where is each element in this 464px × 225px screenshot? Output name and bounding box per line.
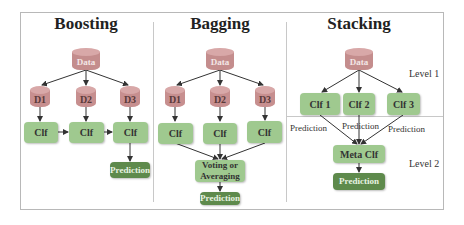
meta-classifier-box: Meta Clf xyxy=(333,145,385,163)
bagging-classifier-1: Clf xyxy=(158,123,193,144)
dataset-label: D3 xyxy=(255,94,275,105)
bagging-classifier-2: Clf xyxy=(203,123,237,144)
voting-or-averaging-box: Voting or Averaging xyxy=(195,160,245,182)
boosting-classifier-1: Clf xyxy=(24,122,58,143)
bagging-classifier-3: Clf xyxy=(247,121,282,143)
stacking-classifier-3: Clf 3 xyxy=(387,93,420,115)
boosting-prediction: Prediction xyxy=(110,162,150,178)
bagging-dataset-d1: D1 xyxy=(165,86,185,107)
boosting-classifier-2: Clf xyxy=(69,122,104,143)
bagging-dataset-d3: D3 xyxy=(255,86,275,107)
level-1-label: Level 1 xyxy=(409,68,439,79)
boosting-data-cylinder: Data xyxy=(72,48,100,70)
title-bagging: Bagging xyxy=(190,14,250,34)
title-stacking: Stacking xyxy=(327,14,390,34)
stacking-data-label: Data xyxy=(345,57,373,67)
stacking-classifier-1: Clf 1 xyxy=(300,93,340,115)
title-boosting: Boosting xyxy=(54,14,117,34)
dataset-label: D2 xyxy=(210,94,230,105)
boosting-dataset-d3: D3 xyxy=(120,86,140,107)
boosting-dataset-d2: D2 xyxy=(76,86,96,107)
bagging-data-label: Data xyxy=(206,57,234,67)
edge-label-prediction-3: Prediction xyxy=(388,124,425,134)
edge-label-prediction-1: Prediction xyxy=(290,123,327,133)
level-2-label: Level 2 xyxy=(409,158,439,169)
bagging-prediction: Prediction xyxy=(200,192,240,205)
bagging-dataset-d2: D2 xyxy=(210,86,230,107)
boosting-data-label: Data xyxy=(72,57,100,67)
edge-label-prediction-2: Prediction xyxy=(342,121,379,131)
boosting-classifier-3: Clf xyxy=(113,122,148,143)
dataset-label: D3 xyxy=(120,94,140,105)
dataset-label: D2 xyxy=(76,94,96,105)
dataset-label: D1 xyxy=(30,94,50,105)
boosting-dataset-d1: D1 xyxy=(30,86,50,107)
dataset-label: D1 xyxy=(165,94,185,105)
stacking-classifier-2: Clf 2 xyxy=(343,93,375,115)
stacking-data-cylinder: Data xyxy=(345,48,373,70)
bagging-data-cylinder: Data xyxy=(206,48,234,70)
stacking-prediction: Prediction xyxy=(333,173,385,190)
